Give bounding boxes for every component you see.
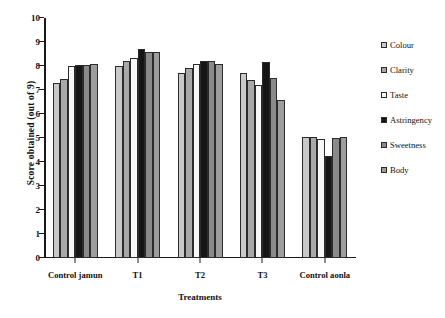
legend-item-body: Body: [381, 165, 432, 175]
bar-colour: [115, 66, 123, 258]
legend-swatch-icon: [381, 67, 387, 73]
y-tick-label: 0: [36, 253, 41, 263]
legend-item-colour: Colour: [381, 40, 432, 50]
bar-groups: Control jamunT1T2T3Control aonla: [44, 18, 356, 258]
x-tick-mark: [75, 258, 76, 263]
bar-sweetness: [145, 52, 153, 258]
legend: ColourClarityTasteAstringencySweetnessBo…: [381, 40, 432, 175]
x-tick-mark: [200, 258, 201, 263]
legend-item-sweetness: Sweetness: [381, 140, 432, 150]
legend-label: Colour: [390, 40, 414, 50]
x-tick-mark: [262, 258, 263, 263]
bar-body: [277, 100, 285, 258]
bar-sweetness: [332, 138, 340, 258]
bar-group: T2: [169, 18, 231, 258]
bar-sweetness: [270, 78, 278, 258]
y-tick-label: 8: [36, 61, 41, 71]
x-tick-mark: [324, 258, 325, 263]
bar-body: [153, 52, 161, 258]
y-tick-label: 9: [36, 37, 41, 47]
bar-group: T3: [231, 18, 293, 258]
y-tick-label: 1: [36, 229, 41, 239]
bar-colour: [302, 137, 310, 258]
y-axis-title: Score obtained (out of 9): [26, 18, 36, 248]
legend-item-taste: Taste: [381, 90, 432, 100]
legend-label: Taste: [390, 90, 408, 100]
y-tick-label: 2: [36, 205, 41, 215]
x-tick-mark: [137, 258, 138, 263]
legend-swatch-icon: [381, 167, 387, 173]
bar-astringency: [325, 156, 333, 258]
y-tick-label: 6: [36, 109, 41, 119]
bar-clarity: [60, 79, 68, 258]
x-tick-label: T3: [257, 270, 267, 280]
y-tick-label: 5: [36, 133, 41, 143]
bar-colour: [53, 83, 61, 258]
legend-label: Clarity: [390, 65, 414, 75]
legend-swatch-icon: [381, 92, 387, 98]
bar-group: Control jamun: [44, 18, 106, 258]
bar-astringency: [200, 61, 208, 258]
bar-astringency: [75, 65, 83, 258]
bar-colour: [240, 73, 248, 258]
bar-clarity: [310, 137, 318, 258]
plot-area: 012345678910 Control jamunT1T2T3Control …: [44, 18, 356, 258]
x-tick-label: Control jamun: [48, 270, 103, 280]
legend-item-clarity: Clarity: [381, 65, 432, 75]
legend-swatch-icon: [381, 142, 387, 148]
bar-sweetness: [83, 65, 91, 258]
legend-swatch-icon: [381, 117, 387, 123]
bar-body: [215, 64, 223, 258]
bar-clarity: [247, 80, 255, 258]
bar-colour: [178, 73, 186, 258]
bar-group: Control aonla: [294, 18, 356, 258]
bar-clarity: [185, 68, 193, 258]
legend-swatch-icon: [381, 42, 387, 48]
bar-body: [90, 64, 98, 258]
bar-taste: [317, 139, 325, 258]
bar-clarity: [123, 61, 131, 258]
bar-astringency: [138, 49, 146, 258]
y-tick-label: 7: [36, 85, 41, 95]
bar-taste: [130, 58, 138, 258]
bar-sweetness: [208, 61, 216, 258]
legend-label: Sweetness: [390, 140, 426, 150]
bar-taste: [255, 85, 263, 258]
bar-group: T1: [106, 18, 168, 258]
y-tick-label: 4: [36, 157, 41, 167]
bar-astringency: [262, 62, 270, 258]
x-tick-label: T1: [133, 270, 143, 280]
x-axis-title: Treatments: [44, 292, 356, 302]
x-tick-label: T2: [195, 270, 205, 280]
bar-taste: [68, 66, 76, 258]
legend-label: Astringency: [390, 115, 432, 125]
y-tick-label: 3: [36, 181, 41, 191]
bar-taste: [193, 64, 201, 258]
legend-item-astringency: Astringency: [381, 115, 432, 125]
legend-label: Body: [390, 165, 409, 175]
bar-body: [340, 137, 348, 258]
y-tick-label: 10: [31, 13, 40, 23]
x-tick-label: Control aonla: [299, 270, 350, 280]
bar-chart: Score obtained (out of 9) 012345678910 C…: [0, 0, 445, 318]
